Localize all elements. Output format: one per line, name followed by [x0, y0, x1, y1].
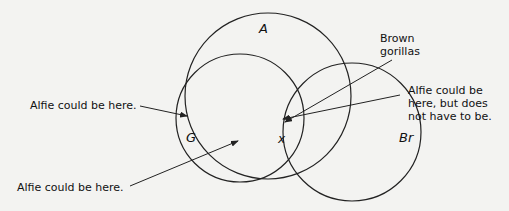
- label-line: not have to be.: [408, 110, 492, 123]
- label-alfie-right: Alfie could be here, but does not have t…: [408, 84, 492, 123]
- set-label-br: Br: [399, 130, 413, 145]
- label-line: here, but does: [408, 97, 492, 110]
- label-alfie-top-left: Alfie could be here.: [30, 99, 137, 112]
- label-alfie-bottom-left: Alfie could be here.: [17, 181, 124, 194]
- label-brown-gorillas: Brown gorillas: [380, 32, 420, 58]
- label-line: Brown: [380, 32, 420, 45]
- set-label-a: A: [259, 21, 268, 36]
- arrow-brown-gorillas: [285, 60, 392, 122]
- set-label-g: G: [186, 130, 196, 145]
- arrow-alfie-top-left: [140, 106, 187, 116]
- label-line: Alfie could be: [408, 84, 492, 97]
- point-x: x: [278, 132, 285, 146]
- label-line: gorillas: [380, 45, 420, 58]
- circle-a: [185, 13, 351, 179]
